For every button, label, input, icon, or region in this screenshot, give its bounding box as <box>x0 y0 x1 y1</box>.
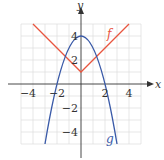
x-tick-label: −4 <box>20 87 36 100</box>
curve-g-label: g <box>106 132 114 146</box>
y-tick-label: 4 <box>71 30 78 43</box>
x-axis-label: x <box>155 78 162 91</box>
x-tick-label: 4 <box>126 87 133 100</box>
y-tick-label: 2 <box>71 54 78 67</box>
curve-f-label: f <box>106 27 114 41</box>
y-axis-label: y <box>76 0 84 12</box>
y-tick-label: −2 <box>62 102 78 115</box>
x-tick-label: −2 <box>49 87 65 100</box>
x-axis-arrow-icon <box>147 81 154 87</box>
function-graph: x y −4 −2 2 4 4 2 −2 −4 f g <box>0 0 164 160</box>
y-tick-label: −4 <box>62 126 78 139</box>
x-tick-label: 2 <box>102 87 109 100</box>
